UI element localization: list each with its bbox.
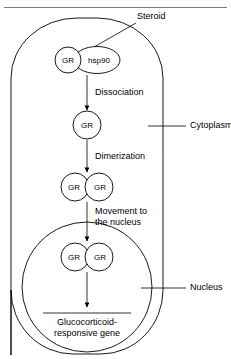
step-label-dimerization: Dimerization [95, 151, 145, 161]
complex-gr-free: GR [73, 111, 101, 139]
pathway-diagram: GR hsp90 GR GR GR GR GR Steroid Cytoplas… [0, 0, 231, 359]
nucleus-label: Nucleus [190, 282, 223, 292]
gr-label-free: GR [81, 121, 93, 130]
step-label-movement-line1: Movement to [95, 206, 147, 216]
gene-label-line2: responsive gene [54, 328, 120, 338]
gr-label-dimer-nuc-right: GR [94, 253, 106, 262]
complex-gr-dimer-cytoplasm: GR GR [61, 173, 113, 201]
complex-gr-hsp90: GR hsp90 [55, 47, 120, 74]
cytoplasm-label: Cytoplasm [190, 120, 231, 130]
gr-label-complex: GR [62, 56, 74, 65]
step-label-movement-line2: the nucleus [95, 217, 142, 227]
complex-gr-dimer-nucleus: GR GR [61, 243, 113, 271]
gene-label-line1: Glucocorticoid- [57, 317, 117, 327]
figure-root: GR hsp90 GR GR GR GR GR Steroid Cytoplas… [0, 0, 231, 359]
hsp90-label: hsp90 [88, 56, 110, 65]
step-label-dissociation: Dissociation [95, 87, 144, 97]
gr-label-dimer-nuc-left: GR [68, 253, 80, 262]
gr-label-dimer-cyto-left: GR [68, 183, 80, 192]
gr-label-dimer-cyto-right: GR [94, 183, 106, 192]
steroid-label: Steroid [137, 11, 166, 21]
